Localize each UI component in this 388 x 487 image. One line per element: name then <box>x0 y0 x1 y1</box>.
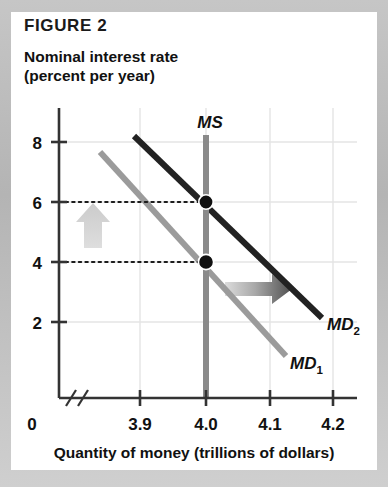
money-demand-1-label-text: MD <box>290 354 316 373</box>
money-demand-2-label: MD2 <box>327 315 360 337</box>
money-demand-2-label-text: MD <box>327 315 353 334</box>
x-tick-label-4-0: 4.0 <box>194 415 218 434</box>
y-tick-label-4: 4 <box>33 254 43 273</box>
x-axis-caption: Quantity of money (trillions of dollars) <box>54 444 335 462</box>
y-tick-label-8: 8 <box>33 134 42 153</box>
money-demand-2-label-subscript: 2 <box>353 325 359 337</box>
money-demand-1-label: MD1 <box>290 354 323 376</box>
money-demand-1-label-subscript: 1 <box>316 364 323 376</box>
money-supply-label: MS <box>197 113 223 132</box>
x-tick-label-4-1: 4.1 <box>258 415 282 434</box>
y-tick-label-2: 2 <box>33 314 42 333</box>
interest-rate-rise-arrow <box>76 203 110 248</box>
y-tick-label-6: 6 <box>33 194 42 213</box>
leader-lines <box>59 202 206 262</box>
equilibrium-point-initial <box>198 254 213 269</box>
money-market-chart: 8 6 4 2 0 3.9 4.0 4.1 4.2 MS MD2 MD1 <box>0 0 388 487</box>
x-tick-label-3-9: 3.9 <box>128 415 152 434</box>
x-tick-label-4-2: 4.2 <box>321 415 345 434</box>
x-origin-label: 0 <box>27 415 36 434</box>
equilibrium-point-new <box>199 195 213 209</box>
figure-frame: FIGURE 2 Nominal interest rate (percent … <box>0 0 388 487</box>
